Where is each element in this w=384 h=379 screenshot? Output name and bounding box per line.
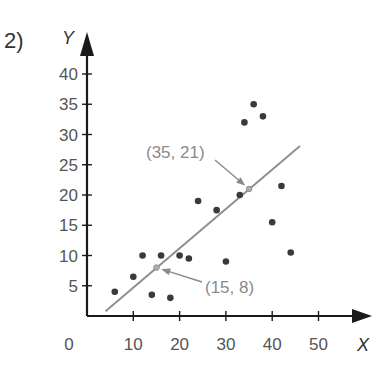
annotation-arrow-line — [215, 160, 241, 182]
annotation-label: (35, 21) — [146, 143, 205, 162]
y-tick-label: 35 — [59, 95, 78, 114]
data-point — [176, 252, 183, 259]
y-tick-label: 40 — [59, 65, 78, 84]
x-axis-label: X — [356, 335, 370, 355]
x-tick-label: 10 — [124, 335, 143, 354]
data-point — [241, 119, 248, 126]
data-point — [236, 192, 243, 199]
data-point — [158, 252, 165, 259]
y-axis-arrow-icon — [80, 32, 94, 56]
x-axis-arrow-icon — [352, 309, 372, 323]
data-point — [213, 207, 220, 214]
x-tick-label: 50 — [309, 335, 328, 354]
data-point — [195, 198, 202, 205]
origin-label: 0 — [64, 335, 73, 354]
x-tick-label: 20 — [170, 335, 189, 354]
data-point — [167, 295, 174, 302]
data-point — [269, 219, 276, 226]
data-point — [130, 273, 137, 280]
data-point — [287, 249, 294, 256]
y-tick-label: 15 — [59, 216, 78, 235]
trend-line — [106, 146, 300, 311]
x-tick-label: 40 — [263, 335, 282, 354]
annotation-label: (15, 8) — [205, 278, 254, 297]
data-point — [250, 101, 257, 108]
scatter-plot: 10203040505101520253035400XY(15, 8)(35, … — [0, 0, 384, 379]
data-point — [149, 292, 156, 299]
x-tick-label: 30 — [216, 335, 235, 354]
y-tick-label: 10 — [59, 247, 78, 266]
data-point — [139, 252, 146, 259]
data-point — [260, 113, 267, 120]
annotation-arrow-icon — [161, 268, 171, 275]
annotation-arrow-line — [167, 271, 202, 282]
y-tick-label: 5 — [69, 277, 78, 296]
y-tick-label: 30 — [59, 126, 78, 145]
marked-point — [154, 265, 160, 271]
y-tick-label: 20 — [59, 186, 78, 205]
data-point — [111, 289, 118, 296]
data-point — [223, 258, 230, 265]
marked-point — [246, 186, 252, 192]
data-point — [278, 183, 285, 190]
y-axis-label: Y — [62, 28, 76, 48]
y-tick-label: 25 — [59, 156, 78, 175]
data-point — [186, 255, 193, 262]
